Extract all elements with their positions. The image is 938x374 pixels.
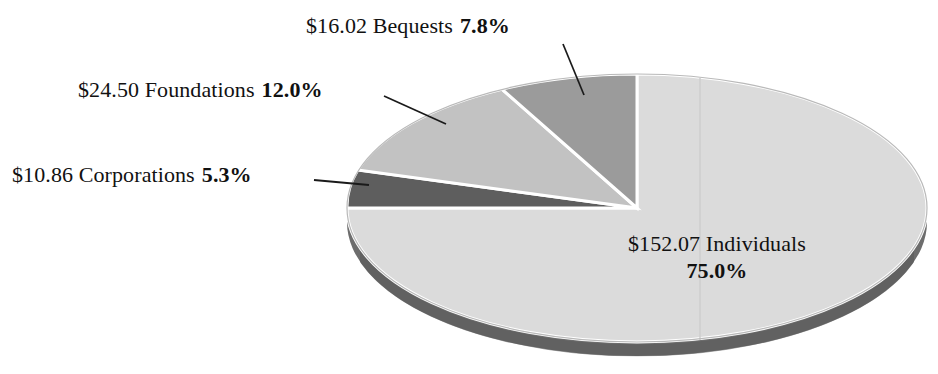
pie-slices-group	[347, 74, 927, 342]
pie-chart-figure: $16.02 Bequests7.8% $24.50 Foundations12…	[0, 0, 938, 374]
slice-label-corporations-amount: $10.86 Corporations	[12, 162, 195, 187]
slice-label-individuals-percent: 75.0%	[628, 258, 806, 285]
slice-label-individuals: $152.07 Individuals75.0%	[628, 231, 806, 285]
slice-label-foundations: $24.50 Foundations12.0%	[78, 78, 323, 103]
slice-label-bequests-amount: $16.02 Bequests	[306, 13, 453, 38]
slice-label-bequests: $16.02 Bequests7.8%	[306, 14, 510, 39]
slice-label-corporations-percent: 5.3%	[202, 162, 252, 187]
slice-label-individuals-amount: $152.07 Individuals	[628, 231, 806, 256]
slice-label-foundations-amount: $24.50 Foundations	[78, 77, 255, 102]
slice-label-foundations-percent: 12.0%	[262, 77, 323, 102]
slice-label-bequests-percent: 7.8%	[460, 13, 510, 38]
slice-label-corporations: $10.86 Corporations5.3%	[12, 163, 252, 188]
